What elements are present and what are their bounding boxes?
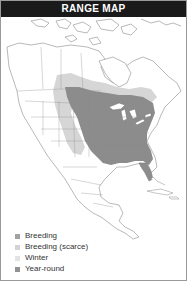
- north-america-map: [1, 17, 186, 265]
- range-map-title: RANGE MAP: [1, 1, 186, 17]
- winter-swatch: [15, 256, 20, 261]
- caribbean-islands: [147, 177, 179, 199]
- arctic-islands: [31, 19, 181, 45]
- legend-item-breeding-scarce: Breeding (scarce): [15, 242, 88, 252]
- legend-item-winter: Winter: [15, 253, 88, 263]
- year-round-swatch: [15, 267, 20, 272]
- breeding-scarce-swatch: [15, 245, 20, 250]
- legend-item-year-round: Year-round: [15, 264, 88, 274]
- legend-label: Year-round: [25, 264, 64, 274]
- legend-item-breeding: Breeding: [15, 231, 88, 241]
- legend-label: Breeding: [25, 231, 57, 241]
- legend-label: Breeding (scarce): [25, 242, 88, 252]
- map-legend: Breeding Breeding (scarce) Winter Year-r…: [15, 231, 88, 275]
- range-map-panel: RANGE MAP: [0, 0, 187, 281]
- legend-label: Winter: [25, 253, 48, 263]
- breeding-swatch: [15, 234, 20, 239]
